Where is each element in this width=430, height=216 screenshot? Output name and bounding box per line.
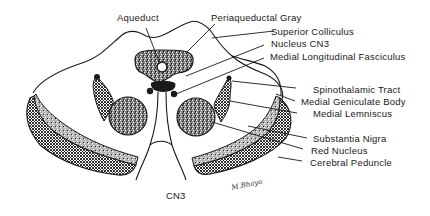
label-periaqueductal-gray: Periaqueductal Gray (211, 12, 301, 23)
label-medial-geniculate-body: Medial Geniculate Body (301, 96, 406, 107)
label-spinothalamic-tract: Spinothalamic Tract (313, 84, 400, 95)
label-red-nucleus: Red Nucleus (311, 145, 368, 156)
aqueduct (157, 62, 167, 72)
label-substantia-nigra: Substantia Nigra (313, 133, 387, 144)
label-aqueduct: Aqueduct (117, 12, 159, 23)
medial-lemniscus-right (214, 78, 231, 122)
label-superior-colliculus: Superior Colliculus (271, 26, 354, 37)
label-medial-lemniscus: Medial Lemniscus (313, 108, 392, 119)
label-cerebral-peduncle: Cerebral Peduncle (310, 157, 392, 168)
spinothalamic-right (227, 76, 232, 81)
nucleus-cn3 (151, 81, 176, 92)
label-nucleus-cn3: Nucleus CN3 (271, 38, 329, 49)
spinothalamic-left (94, 74, 100, 80)
red-nucleus-right (177, 98, 215, 136)
midbrain-diagram: Aqueduct Periaqueductal Gray Superior Co… (0, 0, 430, 216)
mlf-left (147, 88, 153, 94)
label-mlf: Medial Longitudinal Fasciculus (270, 51, 405, 62)
label-cn3: CN3 (166, 190, 186, 201)
artist-signature: M.Bhaya (230, 178, 263, 193)
red-nucleus-left (109, 97, 147, 135)
